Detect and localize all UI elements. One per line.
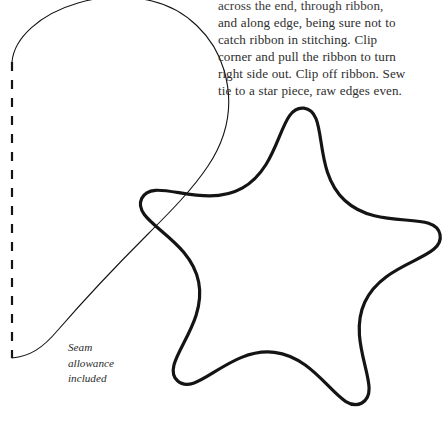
star-piece-group xyxy=(140,108,440,405)
instruction-line-5: right side out. Clip off ribbon. Sew xyxy=(218,65,444,82)
pattern-page: across the end, through ribbon, and alon… xyxy=(0,0,444,440)
tie-piece-group xyxy=(12,0,229,358)
instruction-line-1: across the end, through ribbon, xyxy=(218,0,444,14)
seam-allowance-note: Seam allowance included xyxy=(68,340,114,387)
seam-note-line-3: included xyxy=(68,371,114,387)
seam-note-line-2: allowance xyxy=(68,356,114,372)
instruction-line-6: tie to a star piece, raw edges even. xyxy=(218,82,444,99)
instruction-line-3: catch ribbon in stitching. Clip xyxy=(218,31,444,48)
star-outline xyxy=(140,108,440,405)
instruction-line-2: and along edge, being sure not to xyxy=(218,14,444,31)
seam-note-line-1: Seam xyxy=(68,340,114,356)
tie-piece-outline xyxy=(12,0,229,358)
instructions-text-block: across the end, through ribbon, and alon… xyxy=(218,0,444,100)
instruction-line-4: corner and pull the ribbon to turn xyxy=(218,48,444,65)
